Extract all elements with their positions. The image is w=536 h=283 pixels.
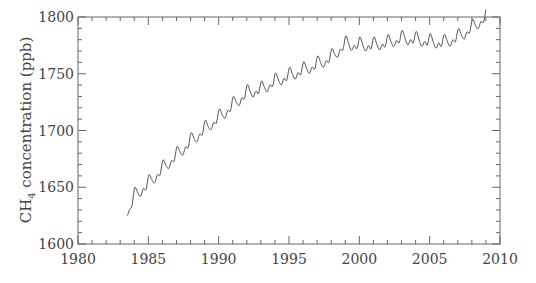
y-tick-label: 1750: [38, 66, 74, 82]
line-chart: 1980198519901995200020052010 16001650170…: [0, 0, 536, 283]
x-axis-tick-labels: 1980198519901995200020052010: [60, 251, 518, 267]
x-tick-label: 1990: [201, 251, 237, 267]
x-tick-label: 2005: [412, 251, 448, 267]
chart: 1980198519901995200020052010 16001650170…: [0, 0, 536, 283]
y-axis-tick-labels: 16001650170017501800: [38, 9, 74, 252]
x-tick-label: 2010: [482, 251, 518, 267]
axes-frame: [78, 17, 500, 244]
y-tick-label: 1600: [38, 236, 74, 252]
ch4-concentration-line: [127, 10, 486, 216]
y-tick-label: 1700: [38, 123, 74, 139]
axis-ticks: [78, 17, 500, 244]
y-axis-label: CH4 concentration (ppb): [17, 37, 37, 224]
y-tick-label: 1800: [38, 9, 74, 25]
x-tick-label: 1995: [271, 251, 307, 267]
y-tick-label: 1650: [38, 179, 74, 195]
x-tick-label: 1980: [60, 251, 96, 267]
x-tick-label: 1985: [131, 251, 167, 267]
x-tick-label: 2000: [342, 251, 378, 267]
plot-frame: [78, 17, 500, 244]
